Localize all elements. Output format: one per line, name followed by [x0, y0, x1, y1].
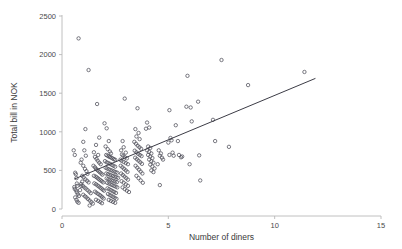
y-axis-title: Total bill in NOK [9, 82, 19, 143]
scatter-point [123, 97, 126, 100]
scatter-point [73, 153, 76, 156]
scatter-point [95, 102, 98, 105]
scatter-point [77, 37, 80, 40]
scatter-point [174, 124, 177, 127]
scatter-point [94, 143, 97, 146]
scatter-point [246, 83, 249, 86]
scatter-point [105, 127, 108, 130]
scatter-point [145, 121, 148, 124]
x-axis-ticks: 051015 [60, 216, 385, 230]
scatter-point [107, 139, 110, 142]
y-axis-ticks: 05001000150020002500 [39, 12, 62, 214]
scatter-point [122, 146, 125, 149]
scatter-point [196, 100, 199, 103]
x-tick-label: 0 [60, 221, 64, 230]
y-tick-label: 1000 [39, 128, 56, 137]
regression-line [75, 79, 315, 179]
scatter-point [220, 58, 223, 61]
y-tick-label: 0 [52, 205, 56, 214]
scatter-point [168, 153, 171, 156]
scatter-point [199, 179, 202, 182]
scatter-point [92, 151, 95, 154]
scatter-point [197, 154, 200, 157]
scatter-point [98, 136, 101, 139]
scatter-point [103, 122, 106, 125]
scatter-point [213, 139, 216, 142]
scatter-point [189, 106, 192, 109]
scatter-point [144, 127, 147, 130]
scatter-point [84, 154, 87, 157]
scatter-point [227, 145, 230, 148]
x-tick-label: 15 [377, 221, 385, 230]
scatter-point [88, 204, 91, 207]
x-axis-title: Number of diners [189, 232, 254, 242]
scatter-point [83, 149, 86, 152]
scatter-point [303, 70, 306, 73]
scatter-point [79, 161, 82, 164]
scatter-point [188, 163, 191, 166]
scatter-points-group [72, 37, 306, 208]
y-tick-label: 2000 [39, 50, 56, 59]
scatter-point [124, 151, 127, 154]
scatter-point [190, 120, 193, 123]
scatter-point [172, 154, 175, 157]
scatter-point [134, 127, 137, 130]
chart-canvas: 05001000150020002500051015Number of dine… [0, 0, 402, 249]
scatter-point [157, 149, 160, 152]
scatter-point [168, 108, 171, 111]
scatter-point [167, 141, 170, 144]
scatter-point [149, 163, 152, 166]
scatter-point [153, 167, 156, 170]
scatter-point [78, 188, 81, 191]
y-tick-label: 2500 [39, 12, 56, 21]
scatter-point [141, 181, 144, 184]
scatter-point [119, 149, 122, 152]
scatter-point [136, 107, 139, 110]
scatter-point [151, 165, 154, 168]
x-tick-label: 10 [270, 221, 278, 230]
scatter-point [180, 155, 183, 158]
scatter-point [185, 105, 188, 108]
scatter-point [135, 135, 138, 138]
scatter-point [137, 131, 140, 134]
scatter-point [72, 149, 75, 152]
scatter-point [87, 68, 90, 71]
scatter-point [121, 139, 124, 142]
scatter-point [186, 74, 189, 77]
scatter-point [113, 201, 116, 204]
scatter-point [158, 183, 161, 186]
scatter-point [156, 163, 159, 166]
y-tick-label: 500 [43, 166, 56, 175]
scatter-plot-figure: 05001000150020002500051015Number of dine… [0, 0, 402, 249]
scatter-point [84, 127, 87, 130]
y-tick-label: 1500 [39, 89, 56, 98]
scatter-point [96, 153, 99, 156]
scatter-point [82, 140, 85, 143]
scatter-point [138, 137, 141, 140]
x-tick-label: 5 [166, 221, 170, 230]
scatter-point [176, 139, 179, 142]
